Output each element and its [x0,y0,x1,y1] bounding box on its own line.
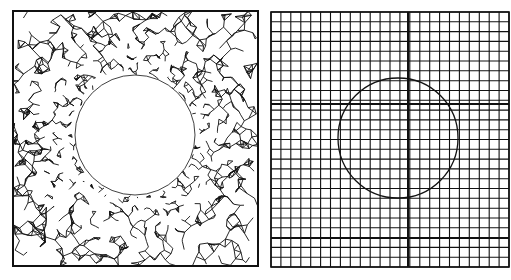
cartesian-grid-panel [0,0,511,280]
grid-lines [271,12,509,267]
cartesian-grid-figure [0,0,511,280]
